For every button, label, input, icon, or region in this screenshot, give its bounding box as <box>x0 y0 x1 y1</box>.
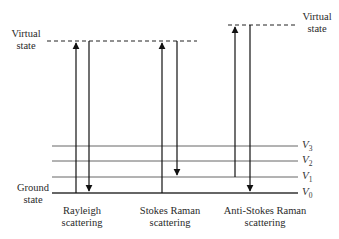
virtual-state-right-label: Virtual state <box>297 11 337 35</box>
label-line: state <box>297 23 337 35</box>
stokes-label: Stokes Raman scattering <box>128 205 212 229</box>
label-line: Stokes Raman <box>128 205 212 217</box>
label-line: Rayleigh <box>52 205 112 217</box>
label-line: Virtual <box>297 11 337 23</box>
label-line: Virtual <box>6 28 46 40</box>
level-label-v3: V3 <box>302 138 312 153</box>
label-line: Anti-Stokes Raman <box>210 205 320 217</box>
label-line: state <box>14 194 52 206</box>
label-line: scattering <box>52 217 112 229</box>
level-label-v1: V1 <box>302 169 312 184</box>
ground-state-label: Ground state <box>14 182 52 206</box>
level-label-v0: V0 <box>302 185 312 200</box>
label-line: Ground <box>14 182 52 194</box>
label-line: scattering <box>210 217 320 229</box>
virtual-state-left-label: Virtual state <box>6 28 46 52</box>
anti-stokes-label: Anti-Stokes Raman scattering <box>210 205 320 229</box>
label-line: scattering <box>128 217 212 229</box>
label-line: state <box>6 40 46 52</box>
rayleigh-label: Rayleigh scattering <box>52 205 112 229</box>
level-label-v2: V2 <box>302 153 312 168</box>
